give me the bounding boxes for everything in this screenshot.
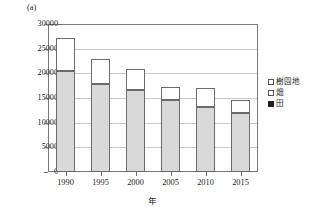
bar-segment-orchard <box>231 100 250 113</box>
y-axis-tick-mark <box>44 172 48 173</box>
bar-segment-orchard <box>56 38 75 71</box>
plot-area <box>48 24 258 172</box>
legend-item-2[interactable]: 田 <box>268 98 310 109</box>
bar-1995 <box>91 24 110 172</box>
y-axis-tick-mark <box>44 49 48 50</box>
y-axis-tick-mark <box>44 123 48 124</box>
y-axis-tick-mark <box>44 147 48 148</box>
gridline <box>49 49 257 50</box>
legend: 樹園地畑田 <box>268 76 310 109</box>
x-axis-tick-label-1995: 1995 <box>83 178 119 188</box>
x-axis-title: 年 <box>148 196 157 206</box>
bar-segment-orchard <box>126 69 145 90</box>
x-axis-tick-label-2010: 2010 <box>188 178 224 188</box>
legend-item-0[interactable]: 樹園地 <box>268 76 310 87</box>
x-axis-tick-label-1990: 1990 <box>48 178 84 188</box>
x-axis-tick-mark <box>241 172 242 176</box>
bar-2010 <box>196 24 215 172</box>
legend-item-label: 畑 <box>276 88 284 97</box>
x-axis-tick-mark <box>66 172 67 176</box>
x-axis-tick-label-2015: 2015 <box>223 178 259 188</box>
x-axis-tick-mark <box>136 172 137 176</box>
open-square-swatch <box>268 90 274 96</box>
y-axis-tick-mark <box>44 24 48 25</box>
bar-2015 <box>231 24 250 172</box>
x-axis-tick-mark <box>171 172 172 176</box>
bar-segment-field <box>56 71 75 172</box>
bar-segment-orchard <box>196 88 215 107</box>
bar-segment-field <box>231 113 250 172</box>
open-square-swatch <box>268 79 274 85</box>
gridline <box>49 147 257 148</box>
bar-1990 <box>56 24 75 172</box>
legend-item-label: 樹園地 <box>276 77 300 86</box>
x-axis-tick-mark <box>206 172 207 176</box>
legend-item-1[interactable]: 畑 <box>268 87 310 98</box>
bar-2005 <box>161 24 180 172</box>
gridline <box>49 123 257 124</box>
bar-segment-field <box>161 100 180 172</box>
bar-segment-field <box>196 107 215 172</box>
stacked-bar-chart: (a) 050001000015000200002500030000 19901… <box>0 0 310 218</box>
bar-segment-orchard <box>161 87 180 101</box>
bar-segment-orchard <box>91 59 110 84</box>
legend-item-label: 田 <box>276 99 284 108</box>
bar-2000 <box>126 24 145 172</box>
x-axis-tick-mark <box>101 172 102 176</box>
y-axis-tick-mark <box>44 98 48 99</box>
filled-square-swatch <box>268 101 274 107</box>
y-axis-tick-mark <box>44 73 48 74</box>
y-axis-unit-label: (a) <box>27 2 36 12</box>
x-axis-tick-label-2005: 2005 <box>153 178 189 188</box>
gridline <box>49 98 257 99</box>
bar-segment-field <box>126 90 145 172</box>
x-axis-tick-label-2000: 2000 <box>118 178 154 188</box>
gridline <box>49 73 257 74</box>
bar-segment-field <box>91 84 110 172</box>
